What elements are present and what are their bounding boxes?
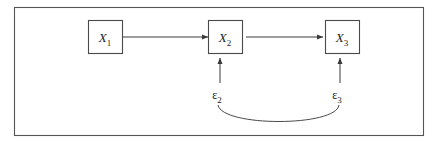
diagram-canvas: X1 X2 X3 ε2 ε3 — [0, 0, 438, 143]
node-x3: X3 — [326, 21, 360, 54]
node-x1: X1 — [89, 21, 123, 54]
path-diagram-figure: X1 X2 X3 ε2 ε3 — [0, 0, 438, 143]
node-x2: X2 — [209, 21, 243, 54]
